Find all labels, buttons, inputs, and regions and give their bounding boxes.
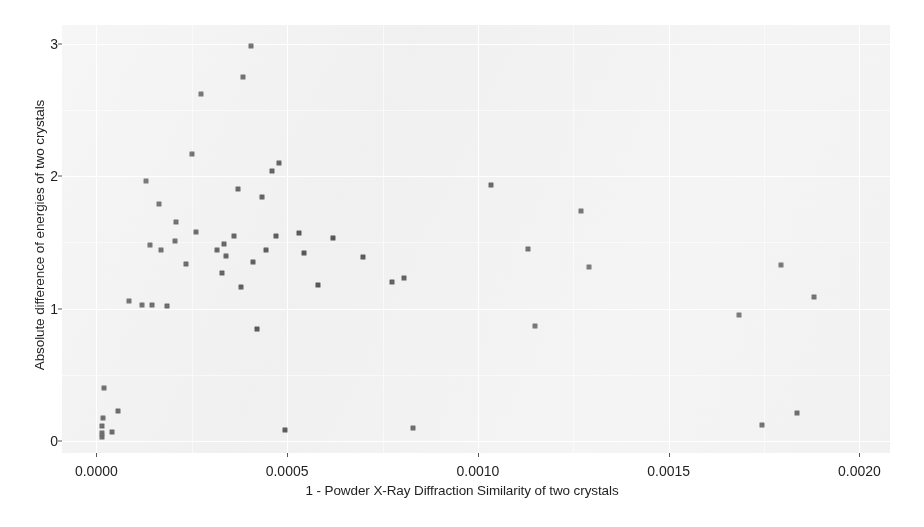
x-tick-mark (859, 453, 860, 457)
gridline-minor-vertical (764, 25, 765, 453)
y-tick-mark (58, 43, 62, 44)
y-tick-label: 1 (32, 301, 58, 317)
data-point (277, 160, 282, 165)
x-axis-title: 1 - Powder X-Ray Diffraction Similarity … (0, 483, 924, 498)
gridline-minor-horizontal (62, 110, 890, 111)
data-point (737, 313, 742, 318)
gridline-major-horizontal (62, 44, 890, 45)
data-point (140, 302, 145, 307)
gridline-major-horizontal (62, 441, 890, 442)
gridline-minor-vertical (192, 25, 193, 453)
data-point (330, 236, 335, 241)
x-tick-label: 0.0005 (266, 463, 309, 479)
gridline-minor-horizontal (62, 375, 890, 376)
x-tick-label: 0.0010 (456, 463, 499, 479)
x-tick-mark (287, 453, 288, 457)
y-axis-tick-labels: 0123 (28, 0, 58, 527)
gridline-minor-vertical (383, 25, 384, 453)
data-point (126, 298, 131, 303)
gridline-major-horizontal (62, 176, 890, 177)
data-point (283, 427, 288, 432)
x-tick-label: 0.0020 (838, 463, 881, 479)
gridline-major-vertical (859, 25, 860, 453)
data-point (174, 220, 179, 225)
data-point (224, 253, 229, 258)
y-tick-mark (58, 308, 62, 309)
data-point (101, 386, 106, 391)
data-point (248, 44, 253, 49)
data-point (811, 295, 816, 300)
plot-panel (62, 25, 890, 453)
data-point (184, 261, 189, 266)
y-tick-label: 0 (32, 433, 58, 449)
data-point (254, 327, 259, 332)
data-point (100, 424, 105, 429)
data-point (239, 284, 244, 289)
gridline-minor-horizontal (62, 242, 890, 243)
data-point (241, 74, 246, 79)
data-point (260, 195, 265, 200)
x-tick-mark (669, 453, 670, 457)
data-point (760, 422, 765, 427)
gridline-major-vertical (96, 25, 97, 453)
data-point (250, 260, 255, 265)
data-point (533, 324, 538, 329)
x-tick-mark (96, 453, 97, 457)
data-point (302, 250, 307, 255)
data-point (390, 280, 395, 285)
data-point (586, 265, 591, 270)
x-tick-label: 0.0000 (75, 463, 118, 479)
x-tick-label: 0.0015 (647, 463, 690, 479)
x-tick-mark (478, 453, 479, 457)
data-point (235, 187, 240, 192)
data-point (172, 238, 177, 243)
data-point (147, 242, 152, 247)
data-point (193, 229, 198, 234)
gridline-major-vertical (478, 25, 479, 453)
data-point (222, 241, 227, 246)
data-point (110, 429, 115, 434)
data-point (578, 209, 583, 214)
x-axis-tick-labels: 0.00000.00050.00100.00150.0020 (0, 453, 924, 483)
data-point (264, 248, 269, 253)
data-point (101, 415, 106, 420)
data-point (315, 282, 320, 287)
gridline-major-vertical (669, 25, 670, 453)
data-point (779, 262, 784, 267)
gridline-major-horizontal (62, 309, 890, 310)
data-point (411, 425, 416, 430)
y-tick-mark (58, 176, 62, 177)
gridline-minor-vertical (573, 25, 574, 453)
data-point (231, 234, 236, 239)
y-tick-label: 2 (32, 168, 58, 184)
data-point (164, 303, 169, 308)
data-point (296, 231, 301, 236)
data-point (401, 276, 406, 281)
data-point (361, 254, 366, 259)
y-tick-label: 3 (32, 36, 58, 52)
y-tick-mark (58, 441, 62, 442)
data-point (159, 248, 164, 253)
data-point (199, 91, 204, 96)
data-point (489, 183, 494, 188)
data-point (143, 178, 148, 183)
data-point (149, 302, 154, 307)
data-point (214, 248, 219, 253)
data-point (189, 151, 194, 156)
data-point (794, 410, 799, 415)
data-point (157, 201, 162, 206)
scatter-plot-figure: Absolute difference of energies of two c… (0, 0, 924, 527)
gridline-major-vertical (287, 25, 288, 453)
data-point (273, 234, 278, 239)
data-point (525, 246, 530, 251)
data-point (269, 168, 274, 173)
data-point (100, 435, 105, 440)
data-point (115, 409, 120, 414)
data-point (220, 271, 225, 276)
